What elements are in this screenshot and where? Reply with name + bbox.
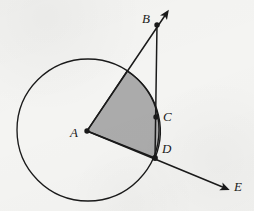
geometry-canvas xyxy=(0,0,254,211)
point-dot-c xyxy=(153,114,158,119)
point-label-d: D xyxy=(162,142,171,155)
point-dot-a xyxy=(84,128,89,133)
point-label-b: B xyxy=(142,12,150,25)
point-label-a: A xyxy=(70,126,78,139)
point-dot-b xyxy=(154,22,159,27)
geometry-figure: A B C D E xyxy=(0,0,254,211)
point-dot-d xyxy=(152,155,158,161)
point-label-c: C xyxy=(163,110,172,123)
point-label-e: E xyxy=(234,180,242,193)
